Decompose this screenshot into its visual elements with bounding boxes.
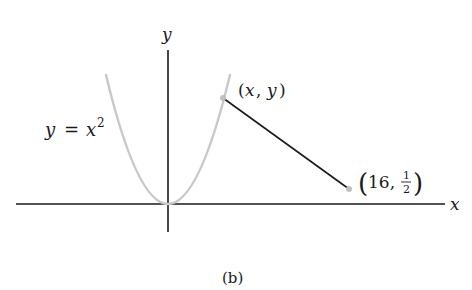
svg-text:,: , — [256, 80, 261, 100]
svg-text:(: ( — [238, 80, 245, 100]
fixed-point-marker — [346, 186, 352, 192]
distance-segment — [223, 98, 349, 189]
y-axis-label: y — [161, 24, 172, 44]
svg-text:1: 1 — [403, 169, 410, 182]
svg-text:16,: 16, — [368, 172, 395, 192]
figure-caption: (b) — [222, 269, 243, 287]
svg-text:): ) — [279, 80, 286, 100]
x-axis-label: x — [450, 194, 460, 214]
point-on-curve-label: ( x , y ) — [238, 80, 286, 100]
point-on-curve-marker — [220, 95, 226, 101]
fixed-point-label: ( 16, 1 2 ) — [358, 168, 423, 198]
svg-text:x: x — [86, 119, 96, 140]
curve-equation-label: y = x 2 — [44, 116, 105, 140]
svg-text:y: y — [266, 80, 277, 100]
svg-text:y: y — [44, 119, 56, 140]
svg-text:2: 2 — [403, 183, 410, 196]
svg-text:=: = — [64, 119, 79, 140]
svg-text:x: x — [245, 80, 255, 100]
svg-text:(: ( — [358, 168, 368, 198]
parabola-distance-diagram: y x y = x 2 ( x , y ) ( 16, 1 2 ) (b) — [0, 0, 472, 290]
svg-text:2: 2 — [97, 116, 105, 130]
svg-text:): ) — [413, 168, 423, 198]
